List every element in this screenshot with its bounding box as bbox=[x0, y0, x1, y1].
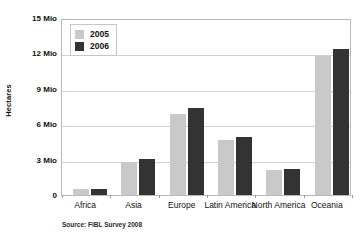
bar bbox=[284, 169, 300, 195]
chart-legend: 20052006 bbox=[70, 24, 117, 56]
y-axis-tick-label: 3 Mio bbox=[11, 156, 57, 165]
x-axis-tick bbox=[159, 195, 160, 198]
legend-label: 2005 bbox=[90, 29, 109, 39]
bar bbox=[73, 189, 89, 195]
bar bbox=[188, 108, 204, 195]
bar bbox=[236, 137, 252, 195]
x-axis-category-label: Oceania bbox=[291, 200, 362, 211]
y-axis-tick-label: 15 Mio bbox=[11, 14, 57, 23]
bar bbox=[121, 162, 137, 195]
x-axis-tick bbox=[62, 195, 63, 198]
x-axis-tick bbox=[255, 195, 256, 198]
bar bbox=[139, 159, 155, 195]
x-axis-tick bbox=[207, 195, 208, 198]
x-axis-tick bbox=[304, 195, 305, 198]
legend-item: 2005 bbox=[75, 28, 109, 40]
bar bbox=[266, 170, 282, 195]
bar-group bbox=[261, 20, 309, 195]
source-note: Source: FiBL Survey 2008 bbox=[62, 221, 142, 228]
bar-group bbox=[213, 20, 261, 195]
x-axis-tick bbox=[352, 195, 353, 198]
y-axis-tick-label: 6 Mio bbox=[11, 120, 57, 129]
legend-label: 2006 bbox=[90, 41, 109, 51]
bar-group bbox=[165, 20, 213, 195]
y-axis-tick-label: 9 Mio bbox=[11, 85, 57, 94]
bar-group bbox=[116, 20, 164, 195]
y-axis-tick-label: 12 Mio bbox=[11, 49, 57, 58]
bar-group bbox=[310, 20, 358, 195]
bar-chart-figure: Hectares 03 Mio6 Mio9 Mio12 Mio15 Mio 20… bbox=[0, 0, 362, 241]
bar bbox=[91, 189, 107, 195]
x-axis-tick bbox=[110, 195, 111, 198]
legend-swatch bbox=[75, 30, 84, 39]
bar bbox=[333, 49, 349, 195]
legend-item: 2006 bbox=[75, 40, 109, 52]
legend-swatch bbox=[75, 42, 84, 51]
bar bbox=[218, 140, 234, 195]
bar bbox=[170, 114, 186, 195]
plot-area: 20052006 bbox=[61, 19, 351, 196]
y-axis-tick-label: 0 bbox=[11, 191, 57, 200]
bar bbox=[315, 56, 331, 195]
